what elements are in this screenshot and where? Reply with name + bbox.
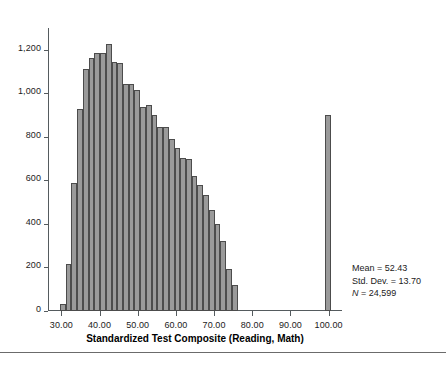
- y-axis-tick-label: 1,000: [18, 86, 41, 96]
- x-axis-tick-label: 50.00: [126, 320, 149, 330]
- y-axis-tick-mark: [44, 224, 48, 225]
- histogram-bar: [325, 115, 331, 311]
- x-axis-tick-mark: [138, 311, 139, 316]
- histogram-figure: 02004006008001,0001,200 30.0040.0050.006…: [0, 0, 446, 368]
- y-axis-tick-mark: [44, 93, 48, 94]
- x-axis-tick-mark: [252, 311, 253, 316]
- y-axis-tick-label: 0: [36, 304, 41, 314]
- x-axis-tick-label: 60.00: [164, 320, 187, 330]
- histogram-bar: [232, 285, 238, 311]
- y-axis-tick-mark: [44, 267, 48, 268]
- y-axis-tick-label: 600: [26, 173, 41, 183]
- x-axis-tick-label: 40.00: [88, 320, 111, 330]
- x-axis-tick-label: 90.00: [279, 320, 302, 330]
- x-axis-tick-mark: [329, 311, 330, 316]
- x-axis-tick-mark: [100, 311, 101, 316]
- y-axis-tick-label: 800: [26, 130, 41, 140]
- y-axis-tick-mark: [44, 311, 48, 312]
- x-axis-tick-label: 80.00: [241, 320, 264, 330]
- x-axis-tick-mark: [176, 311, 177, 316]
- stat-n: N = 24,599: [352, 287, 421, 300]
- y-axis-tick-label: 200: [26, 260, 41, 270]
- y-axis-tick-mark: [44, 137, 48, 138]
- y-axis-tick-label: 400: [26, 217, 41, 227]
- x-axis-tick-mark: [290, 311, 291, 316]
- y-axis-line: [48, 28, 49, 311]
- caption-clip: [0, 356, 446, 368]
- stat-n-value: = 24,599: [359, 288, 397, 298]
- x-axis-tick-label: 100.00: [315, 320, 343, 330]
- x-axis-tick-mark: [61, 311, 62, 316]
- x-axis-tick-label: 30.00: [50, 320, 73, 330]
- x-axis-tick-label: 70.00: [203, 320, 226, 330]
- plot-area: 02004006008001,0001,200 30.0040.0050.006…: [48, 28, 342, 311]
- stat-mean: Mean = 52.43: [352, 262, 421, 275]
- footer-divider: [0, 352, 446, 353]
- x-axis-tick-mark: [214, 311, 215, 316]
- stat-stddev: Std. Dev. = 13.70: [352, 275, 421, 288]
- y-axis-tick-label: 1,200: [18, 43, 41, 53]
- y-axis-tick-mark: [44, 50, 48, 51]
- x-axis-title: Standardized Test Composite (Reading, Ma…: [48, 333, 342, 344]
- y-axis-tick-mark: [44, 180, 48, 181]
- statistics-annotation: Mean = 52.43 Std. Dev. = 13.70 N = 24,59…: [352, 262, 421, 300]
